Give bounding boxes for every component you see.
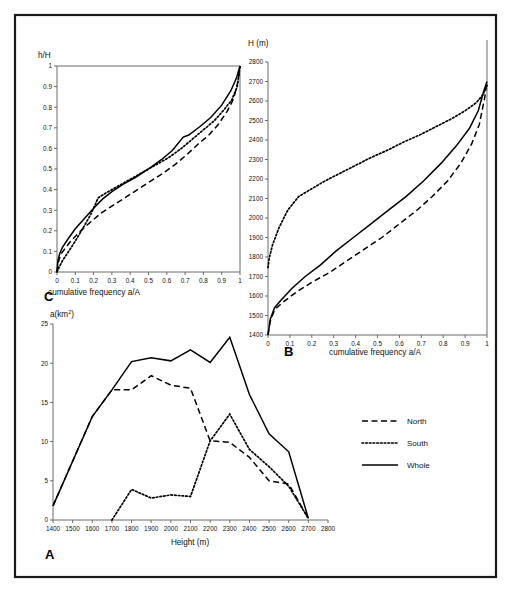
panel_c-x-tick-label: 0.9 [217, 277, 226, 284]
panel-a-ylabel: a(km2) [50, 309, 74, 319]
panel_a-x-tick-label: 2800 [321, 525, 336, 532]
panel_c-y-tick-label: 0.3 [43, 207, 52, 214]
panel_a-x-tick-label: 2400 [242, 525, 257, 532]
panel_a-x-tick-label: 1500 [66, 525, 81, 532]
panel_c-x-tick-label: 1 [238, 277, 242, 284]
panel_c-x-tick-label: 0.5 [144, 277, 153, 284]
panel_a-x-tick-label: 2600 [282, 525, 297, 532]
panel_b-x-tick-label: 0.9 [461, 340, 470, 347]
panel_c-y-tick-label: 0 [48, 268, 52, 275]
panel_a-x-tick-label: 1600 [85, 525, 100, 532]
panel_c-x-tick-label: 0 [55, 277, 59, 284]
panel_b-y-tick-label: 2700 [249, 78, 264, 85]
panel_b-y-tick-label: 2300 [249, 156, 264, 163]
panel-b-letter: B [284, 344, 293, 359]
panel_c-x-tick-label: 0.6 [162, 277, 171, 284]
panel_b-y-tick-label: 1900 [249, 234, 264, 241]
panel-c-ylabel: h/H [38, 51, 51, 60]
panel_b-y-tick-label: 2600 [249, 97, 264, 104]
panel_b-y-tick-label: 2100 [249, 195, 264, 202]
panel_c-x-tick-label: 0.3 [107, 277, 116, 284]
panel_b-x-tick-label: 0.8 [439, 340, 448, 347]
panel_b-y-tick-label: 1500 [249, 312, 264, 319]
panel-a-letter: A [45, 547, 55, 562]
panel_c-x-tick-label: 0.2 [89, 277, 98, 284]
panel_c-y-tick-label: 1 [48, 62, 52, 69]
panel_a-y-tick-label: 10 [41, 438, 49, 445]
panel_a-x-tick-label: 2300 [223, 525, 238, 532]
panel_a-y-tick-label: 15 [41, 399, 49, 406]
panel_b-x-tick-label: 0.3 [329, 340, 338, 347]
panel_c-y-tick-label: 0.6 [43, 145, 52, 152]
panel-b-xlabel: cumulative frequency a/A [329, 348, 421, 357]
panel-c-xlabel: cumulative frequency a/A [48, 288, 140, 297]
figure-canvas: h/H 00.10.20.30.40.50.60.70.80.9100.10.2… [0, 0, 510, 596]
panel_c-y-tick-label: 0.7 [43, 124, 52, 131]
panel_b-x-tick-label: 0 [266, 340, 270, 347]
panel_b-x-tick-label: 0.7 [417, 340, 426, 347]
panel_b-y-tick-label: 1800 [249, 253, 264, 260]
panel_c-y-tick-label: 0.2 [43, 227, 52, 234]
legend-label-south: South [407, 439, 428, 448]
panel_a-x-tick-label: 2100 [183, 525, 198, 532]
panel_b-x-tick-label: 0.4 [351, 340, 360, 347]
panel_b-x-tick-label: 1 [485, 340, 489, 347]
panel_a-x-tick-label: 2500 [262, 525, 277, 532]
panel-c-letter: C [44, 289, 54, 304]
panel-a-xlabel: Height (m) [171, 538, 209, 547]
panel_b-y-tick-label: 2200 [249, 175, 264, 182]
panel_c-x-tick-label: 0.4 [126, 277, 135, 284]
panel_a-y-tick-label: 0 [44, 516, 48, 523]
panel_b-x-tick-label: 0.6 [395, 340, 404, 347]
panel_b-y-tick-label: 1700 [249, 273, 264, 280]
panel_a-x-tick-label: 1700 [105, 525, 120, 532]
panel_a-y-tick-label: 20 [41, 360, 49, 367]
panel_a-x-tick-label: 2700 [301, 525, 316, 532]
panel_c-y-tick-label: 0.5 [43, 165, 52, 172]
panel_b-y-tick-label: 2500 [249, 117, 264, 124]
panel_a-y-tick-label: 5 [44, 477, 48, 484]
panel_a-x-tick-label: 1400 [46, 525, 61, 532]
panel_c-x-tick-label: 0.1 [71, 277, 80, 284]
legend-label-north: North [407, 417, 427, 426]
legend-label-whole: Whole [407, 461, 430, 470]
panel_b-y-tick-label: 2000 [249, 214, 264, 221]
panel_a-x-tick-label: 2000 [164, 525, 179, 532]
panel_a-y-tick-label: 25 [41, 320, 49, 327]
panel_c-y-tick-label: 0.8 [43, 104, 52, 111]
panel_a-x-tick-label: 1800 [124, 525, 139, 532]
panel_a-x-tick-label: 2200 [203, 525, 218, 532]
panel_b-x-tick-label: 0.5 [373, 340, 382, 347]
figure-container: h/H 00.10.20.30.40.50.60.70.80.9100.10.2… [0, 0, 510, 596]
panel_c-x-tick-label: 0.8 [199, 277, 208, 284]
panel_b-y-tick-label: 2800 [249, 58, 264, 65]
panel_b-y-tick-label: 2400 [249, 136, 264, 143]
panel_a-x-tick-label: 1900 [144, 525, 159, 532]
panel_c-x-tick-label: 0.7 [181, 277, 190, 284]
panel-b-ylabel: H (m) [248, 39, 269, 48]
panel_c-y-tick-label: 0.9 [43, 83, 52, 90]
panel_b-y-tick-label: 1600 [249, 292, 264, 299]
panel_b-x-tick-label: 0.2 [307, 340, 316, 347]
panel_c-y-tick-label: 0.1 [43, 248, 52, 255]
panel_b-y-tick-label: 1400 [249, 331, 264, 338]
panel_c-y-tick-label: 0.4 [43, 186, 52, 193]
